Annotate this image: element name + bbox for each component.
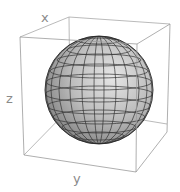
axis-label-x: x [41,10,49,25]
sphere-plot: x z y [0,0,180,192]
axis-label-z: z [6,91,13,106]
axis-label-y: y [73,171,81,186]
